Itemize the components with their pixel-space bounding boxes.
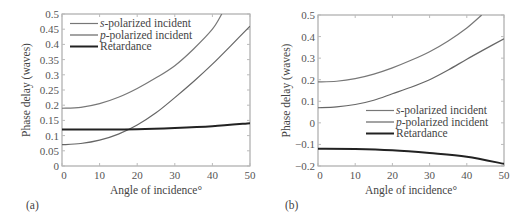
- x-tick-label: 40: [207, 169, 219, 181]
- x-tick-label: 0: [317, 169, 323, 181]
- panel-label: (a): [26, 199, 39, 212]
- y-tick-label: 0: [54, 160, 60, 172]
- series-line: [318, 39, 504, 108]
- series-group: [318, 15, 504, 164]
- y-tick-label: −0.2: [295, 160, 315, 172]
- y-tick-label: 0.45: [40, 23, 60, 35]
- panel-label: (b): [285, 199, 299, 212]
- y-axis-label: Phase delay (waves): [20, 43, 33, 137]
- y-axis-label: Phase delay (waves): [280, 43, 293, 137]
- x-tick-label: 30: [169, 169, 181, 181]
- figure-canvas: 00.050.10.150.20.250.30.350.40.450.50102…: [0, 0, 531, 216]
- x-axis-label: Angle of incidence°: [110, 184, 202, 197]
- legend-text: Retardance: [100, 40, 152, 52]
- y-tick-label: 0.3: [301, 52, 315, 64]
- y-tick-label: 0.1: [45, 130, 59, 142]
- x-tick-label: 10: [350, 169, 362, 181]
- x-tick-label: 10: [94, 169, 106, 181]
- y-tick-label: 0.2: [45, 99, 59, 111]
- y-tick-label: 0.25: [40, 84, 60, 96]
- y-tick-label: 0: [310, 117, 316, 129]
- y-tick-label: 0.35: [40, 54, 60, 66]
- x-tick-label: 20: [387, 169, 399, 181]
- y-tick-label: 0.5: [301, 9, 315, 21]
- y-tick-label: 0.4: [301, 31, 315, 43]
- series-line: [62, 26, 250, 145]
- x-tick-label: 0: [61, 169, 67, 181]
- x-tick-label: 50: [499, 169, 511, 181]
- y-tick-label: 0.3: [45, 69, 59, 81]
- y-tick-label: 0.1: [301, 95, 315, 107]
- legend-label: Retardance: [396, 127, 448, 139]
- x-tick-label: 20: [132, 169, 144, 181]
- series-line: [62, 123, 250, 129]
- plot-frame: [318, 15, 504, 166]
- y-tick-label: 0.2: [301, 74, 315, 86]
- x-tick-label: 30: [424, 169, 436, 181]
- legend: s-polarized incidentp-polarized incident…: [366, 104, 489, 139]
- legend-label: Retardance: [100, 40, 152, 52]
- chart-b: −0.2−0.100.10.20.30.40.501020304050s-pol…: [280, 9, 510, 212]
- chart-a: 00.050.10.150.20.250.30.350.40.450.50102…: [20, 8, 256, 212]
- legend: s-polarized incidentp-polarized incident…: [70, 17, 193, 52]
- y-tick-label: 0.4: [45, 38, 59, 50]
- y-tick-label: −0.1: [295, 138, 315, 150]
- y-tick-label: 0.5: [45, 8, 59, 20]
- x-tick-label: 40: [461, 169, 473, 181]
- x-tick-label: 50: [245, 169, 257, 181]
- series-line: [318, 15, 482, 82]
- legend-text: Retardance: [396, 127, 448, 139]
- series-line: [318, 149, 504, 164]
- y-tick-label: 0.15: [40, 114, 60, 126]
- x-axis-label: Angle of incidence°: [365, 184, 457, 197]
- y-tick-label: 0.05: [40, 145, 60, 157]
